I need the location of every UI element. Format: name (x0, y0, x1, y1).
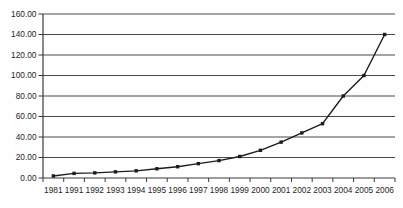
data-point-marker (300, 131, 303, 134)
y-axis-label: 0.00 (20, 173, 37, 183)
y-axis-label: 20.00 (16, 152, 37, 162)
x-axis-label: 1981 (44, 185, 63, 195)
x-axis-label: 1998 (210, 185, 229, 195)
data-point-marker (342, 94, 345, 97)
y-axis-label: 160.00 (11, 9, 37, 19)
data-point-marker (114, 170, 117, 173)
y-axis-label: 120.00 (11, 50, 37, 60)
y-axis-label: 80.00 (16, 91, 37, 101)
y-axis-label: 100.00 (11, 70, 37, 80)
x-axis-label: 1997 (189, 185, 208, 195)
data-point-marker (197, 162, 200, 165)
data-point-marker (238, 155, 241, 158)
x-axis-label: 2002 (293, 185, 312, 195)
data-point-marker (52, 174, 55, 177)
x-axis-label: 1993 (106, 185, 125, 195)
data-point-marker (217, 159, 220, 162)
x-axis-label: 1994 (127, 185, 146, 195)
data-point-marker (176, 165, 179, 168)
data-point-marker (93, 171, 96, 174)
y-axis-label: 140.00 (11, 29, 37, 39)
line-chart: 0.0020.0040.0060.0080.00100.00120.00140.… (0, 0, 403, 208)
x-axis-label: 1996 (168, 185, 187, 195)
x-axis-label: 1991 (65, 185, 84, 195)
x-axis-label: 2006 (375, 185, 394, 195)
y-axis-label: 40.00 (16, 132, 37, 142)
data-point-marker (259, 149, 262, 152)
x-axis-label: 2005 (355, 185, 374, 195)
data-point-marker (362, 74, 365, 77)
x-axis-label: 2003 (313, 185, 332, 195)
data-point-marker (383, 33, 386, 36)
x-axis-label: 2004 (334, 185, 353, 195)
chart-canvas: 0.0020.0040.0060.0080.00100.00120.00140.… (0, 0, 403, 208)
data-point-marker (72, 172, 75, 175)
data-point-marker (279, 140, 282, 143)
y-axis-label: 60.00 (16, 111, 37, 121)
x-axis-label: 1999 (230, 185, 249, 195)
x-axis-label: 2000 (251, 185, 270, 195)
x-axis-label: 1992 (86, 185, 105, 195)
x-axis-label: 1995 (148, 185, 167, 195)
data-line (53, 35, 384, 176)
data-point-marker (155, 167, 158, 170)
data-point-marker (134, 169, 137, 172)
data-point-marker (321, 122, 324, 125)
x-axis-label: 2001 (272, 185, 291, 195)
